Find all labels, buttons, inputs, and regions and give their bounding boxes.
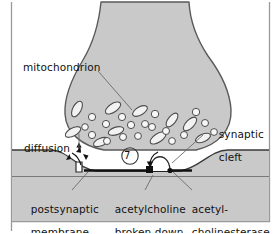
- label-acetylcholinesterase: acetyl- cholinesterase: [178, 192, 270, 233]
- label-diffusion: diffusion: [24, 143, 70, 155]
- label-acetylcholine-broken-down: acetylcholine broken down: [101, 192, 186, 233]
- label-postsynaptic-line2: membrane: [31, 226, 89, 234]
- label-synaptic-cleft-line1: synaptic: [219, 128, 264, 140]
- label-acetylcholine-line2: broken down: [115, 226, 184, 234]
- step-number: 7: [124, 150, 130, 162]
- label-acetylcholinesterase-line2: cholinesterase: [192, 226, 270, 234]
- label-acetylcholinesterase-line1: acetyl-: [192, 203, 228, 215]
- label-synaptic-cleft-line2: cleft: [219, 151, 242, 163]
- label-postsynaptic-line1: postsynaptic: [31, 203, 99, 215]
- label-mitochondrion: mitochondrion: [23, 62, 100, 74]
- label-synaptic-cleft: synaptic cleft: [205, 117, 264, 175]
- label-acetylcholine-line1: acetylcholine: [115, 203, 186, 215]
- label-postsynaptic-membrane: postsynaptic membrane: [17, 192, 99, 233]
- synapse-diagram: mitochondrion synaptic cleft diffusion p…: [0, 0, 280, 233]
